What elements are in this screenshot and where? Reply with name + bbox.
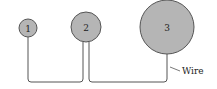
sphere-2-label: 2 <box>83 23 89 33</box>
sphere-1-label: 1 <box>25 24 31 34</box>
sphere-3: 3 <box>140 0 194 54</box>
diagram-canvas: 1 2 3 Wire <box>0 0 217 89</box>
sphere-3-label: 3 <box>164 23 170 33</box>
sphere-1: 1 <box>19 19 37 37</box>
wire-1-2 <box>28 37 83 82</box>
sphere-2: 2 <box>71 12 101 42</box>
wire-label: Wire <box>182 66 204 76</box>
spheres-wire-diagram: 1 2 3 Wire <box>0 0 217 89</box>
wire-leader-line <box>170 67 180 71</box>
